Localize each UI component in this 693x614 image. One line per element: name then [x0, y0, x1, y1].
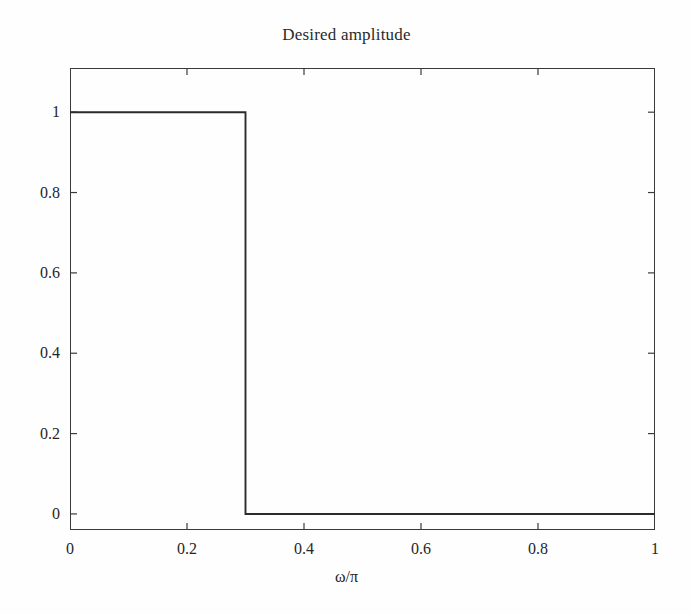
x-tick-label: 1	[651, 540, 659, 558]
figure-canvas: Desired amplitude 00.20.40.60.81 00.20.4…	[0, 0, 693, 614]
tick-marks	[70, 68, 655, 530]
y-tick-label: 0.2	[20, 425, 60, 443]
x-tick-label: 0	[66, 540, 74, 558]
y-tick-label: 0.8	[20, 184, 60, 202]
x-tick-label: 0.8	[528, 540, 548, 558]
plot-area	[70, 68, 655, 530]
y-tick-label: 0.4	[20, 344, 60, 362]
page-title: Desired amplitude	[0, 25, 693, 45]
data-canvas	[70, 68, 655, 530]
y-tick-label: 0.6	[20, 264, 60, 282]
y-tick-label: 0	[20, 505, 60, 523]
x-tick-label: 0.2	[177, 540, 197, 558]
x-axis-label: ω/π	[0, 568, 693, 586]
series-line-desired-amplitude	[70, 112, 655, 514]
y-tick-label: 1	[20, 103, 60, 121]
x-tick-label: 0.6	[411, 540, 431, 558]
x-tick-label: 0.4	[294, 540, 314, 558]
